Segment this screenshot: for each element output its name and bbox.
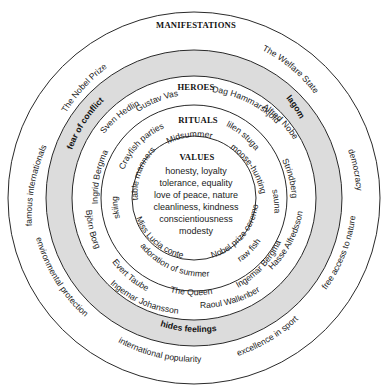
layer-title-rituals: RITUALS bbox=[178, 115, 218, 125]
value-line: conscientiousness bbox=[159, 214, 233, 224]
layer-title-manifestations: MANIFESTATIONS bbox=[156, 20, 236, 30]
outer-label: famous internationals bbox=[24, 143, 49, 226]
culture-onion-diagram: MANIFESTATIONS HEROES RITUALS VALUES hon… bbox=[0, 0, 388, 386]
layer-title-heroes: HEROES bbox=[177, 82, 214, 92]
value-line: modesty bbox=[179, 226, 214, 236]
value-line: honesty, loyalty bbox=[165, 166, 227, 176]
outer-label: democracy bbox=[346, 147, 365, 191]
value-line: love of peace, nature bbox=[154, 190, 238, 200]
value-line: cleanliness, kindness bbox=[153, 202, 239, 212]
layer-title-values: VALUES bbox=[180, 152, 215, 162]
value-line: tolerance, equality bbox=[159, 178, 233, 188]
